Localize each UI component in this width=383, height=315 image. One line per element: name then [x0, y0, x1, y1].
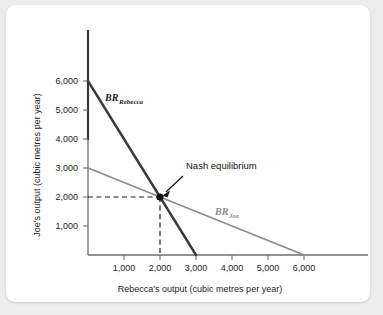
nash-equilibrium-label: Nash equilibrium [186, 160, 257, 171]
chart-svg: 1,000 2,000 3,000 4,000 5,000 6,000 1,00… [0, 0, 383, 315]
series-label-br-joe: BR Joe [214, 206, 239, 220]
x-tick-label-3000: 3,000 [185, 263, 208, 273]
y-tick-label-4000: 4,000 [55, 134, 78, 144]
y-tick-label-1000: 1,000 [55, 221, 78, 231]
x-axis-ticks [124, 255, 304, 260]
series-label-br-rebecca-main: BR [104, 92, 119, 103]
best-response-chart: 1,000 2,000 3,000 4,000 5,000 6,000 1,00… [0, 0, 383, 315]
series-label-br-rebecca: BR Rebecca [104, 92, 144, 106]
x-tick-label-2000: 2,000 [149, 263, 172, 273]
series-line-br-joe [88, 168, 304, 255]
series-line-br-rebecca [88, 81, 196, 255]
series-label-br-rebecca-sub: Rebecca [118, 98, 144, 106]
x-tick-label-5000: 5,000 [257, 263, 280, 273]
y-tick-label-3000: 3,000 [55, 163, 78, 173]
series-label-br-joe-main: BR [214, 206, 229, 217]
y-tick-label-5000: 5,000 [55, 105, 78, 115]
y-axis-title: Joe's output (cubic metres per year) [32, 93, 42, 236]
x-tick-label-1000: 1,000 [113, 263, 136, 273]
series-label-br-joe-sub: Joe [228, 212, 239, 220]
y-tick-label-6000: 6,000 [55, 76, 78, 86]
x-tick-label-4000: 4,000 [221, 263, 244, 273]
x-axis-title: Rebecca's output (cubic metres per year) [118, 284, 282, 294]
y-tick-label-2000: 2,000 [55, 192, 78, 202]
x-tick-label-6000: 6,000 [293, 263, 316, 273]
nash-equilibrium-dot [156, 193, 163, 200]
nash-equilibrium-arrow-shaft [166, 176, 183, 192]
